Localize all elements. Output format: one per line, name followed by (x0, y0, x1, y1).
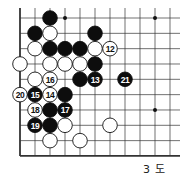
white-stone: 12 (103, 41, 118, 56)
white-stone (28, 72, 43, 87)
white-stone (73, 133, 88, 148)
move-number: 20 (16, 90, 25, 100)
black-stone (88, 26, 103, 41)
white-stone (28, 41, 43, 56)
white-stone: 18 (28, 103, 43, 118)
go-board: 12161321201514181719 (0, 0, 185, 160)
move-number: 21 (121, 75, 130, 85)
black-stone (43, 41, 58, 56)
move-number: 16 (46, 75, 55, 85)
move-number: 14 (46, 90, 55, 100)
black-stone: 13 (88, 72, 103, 87)
white-stone (58, 118, 73, 133)
move-number: 17 (61, 105, 70, 115)
star-point-icon (153, 16, 157, 20)
white-stone: 20 (13, 87, 28, 102)
move-number: 13 (91, 75, 100, 85)
white-stone (13, 57, 28, 72)
white-stone (43, 57, 58, 72)
white-stone: 14 (43, 87, 58, 102)
white-stone (43, 26, 58, 41)
white-stone (103, 118, 118, 133)
black-stone: 21 (118, 72, 133, 87)
black-stone (43, 103, 58, 118)
white-stone (58, 57, 73, 72)
black-stone: 15 (28, 87, 43, 102)
black-stone (88, 57, 103, 72)
move-number: 15 (31, 90, 40, 100)
black-stone (73, 72, 88, 87)
black-stone: 19 (28, 118, 43, 133)
black-stone (28, 26, 43, 41)
black-stone (43, 11, 58, 26)
star-point-icon (153, 108, 157, 112)
white-stone (43, 133, 58, 148)
move-number: 18 (31, 105, 40, 115)
white-stone: 16 (43, 72, 58, 87)
move-number: 19 (31, 121, 40, 131)
star-point-icon (63, 16, 67, 20)
diagram-caption: 3 도 (143, 160, 167, 175)
white-stone (88, 41, 103, 56)
black-stone (73, 41, 88, 56)
black-stone (43, 118, 58, 133)
black-stone: 17 (58, 103, 73, 118)
black-stone (58, 41, 73, 56)
black-stone (58, 87, 73, 102)
white-stone (73, 57, 88, 72)
move-number: 12 (106, 44, 115, 54)
